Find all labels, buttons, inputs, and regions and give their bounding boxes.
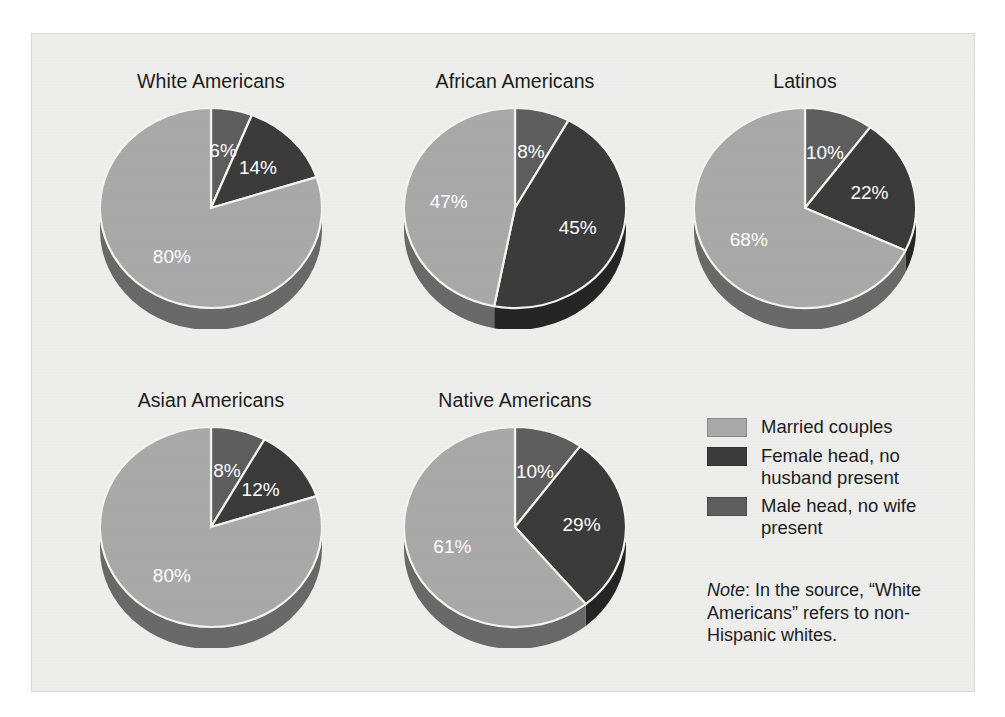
svg-text:80%: 80%	[153, 565, 191, 586]
svg-text:10%: 10%	[516, 461, 554, 482]
legend-item-female-head: Female head, no husband present	[707, 445, 962, 489]
pie-chart-african-americans: African Americans 8%45%47%	[372, 70, 658, 332]
pie-canvas: 6%14%80%	[68, 104, 354, 329]
pie-title: Native Americans	[372, 389, 658, 412]
svg-text:68%: 68%	[730, 229, 768, 250]
pie-title: African Americans	[372, 70, 658, 93]
pie-title: Latinos	[662, 70, 948, 93]
figure-note: Note: In the source, “White Americans” r…	[707, 579, 975, 647]
pie-title: White Americans	[68, 70, 354, 93]
pie-chart-native-americans: Native Americans 10%29%61%	[372, 389, 658, 651]
svg-text:6%: 6%	[209, 140, 237, 161]
legend-label: Male head, no wife present	[761, 495, 962, 539]
figure-panel: White Americans 6%14%80% African America…	[31, 33, 975, 692]
pie-canvas: 10%22%68%	[662, 104, 948, 329]
svg-text:8%: 8%	[517, 141, 545, 162]
svg-text:61%: 61%	[433, 536, 471, 557]
pie-canvas: 8%12%80%	[68, 423, 354, 648]
note-lead: Note	[707, 580, 745, 600]
svg-text:80%: 80%	[153, 246, 191, 267]
svg-text:8%: 8%	[213, 460, 241, 481]
pie-chart-latinos: Latinos 10%22%68%	[662, 70, 948, 332]
svg-text:10%: 10%	[806, 142, 844, 163]
chart-legend: Married couples Female head, no husband …	[707, 416, 962, 546]
svg-text:12%: 12%	[242, 479, 280, 500]
svg-text:22%: 22%	[850, 182, 888, 203]
svg-text:45%: 45%	[559, 217, 597, 238]
legend-item-married-couples: Married couples	[707, 416, 962, 438]
svg-text:29%: 29%	[563, 514, 601, 535]
legend-label: Female head, no husband present	[761, 445, 962, 489]
legend-swatch-female-head	[707, 447, 747, 466]
pie-chart-asian-americans: Asian Americans 8%12%80%	[68, 389, 354, 651]
pie-title: Asian Americans	[68, 389, 354, 412]
pie-chart-white-americans: White Americans 6%14%80%	[68, 70, 354, 332]
legend-label: Married couples	[761, 416, 893, 438]
pie-canvas: 10%29%61%	[372, 423, 658, 648]
legend-swatch-male-head	[707, 497, 747, 516]
svg-text:47%: 47%	[430, 191, 468, 212]
pie-canvas: 8%45%47%	[372, 104, 658, 329]
legend-item-male-head: Male head, no wife present	[707, 495, 962, 539]
legend-swatch-married-couples	[707, 418, 747, 437]
svg-text:14%: 14%	[239, 157, 277, 178]
